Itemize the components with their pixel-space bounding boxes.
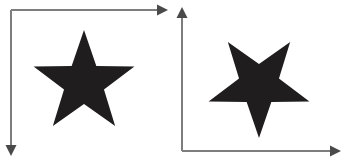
math-coordinates-canvas bbox=[173, 0, 346, 163]
star-shape bbox=[34, 30, 135, 126]
star-shape bbox=[209, 42, 310, 138]
y-axis-arrowhead-icon bbox=[6, 145, 17, 156]
screen-coordinates-canvas bbox=[0, 0, 173, 163]
coordinate-system-figure: Y axis points downward from the top-left… bbox=[0, 0, 346, 163]
y-axis-arrowhead-icon bbox=[177, 7, 188, 18]
math-coordinates-panel: Y axis points upward from the bottom-lef… bbox=[173, 0, 346, 163]
x-axis-arrowhead-icon bbox=[157, 5, 168, 16]
screen-coordinates-panel: Y axis points downward from the top-left… bbox=[0, 0, 173, 163]
x-axis-arrowhead-icon bbox=[330, 146, 341, 157]
